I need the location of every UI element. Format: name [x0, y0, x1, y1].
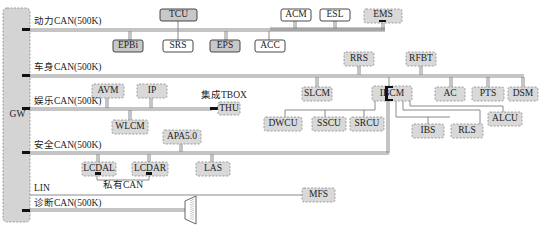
- node-label-eps: EPS: [210, 41, 240, 51]
- bus-label-infotainment: 娱乐CAN(500K): [34, 97, 102, 107]
- node-label-dsm: DSM: [508, 89, 538, 99]
- bus-label-powertrain: 动力CAN(500K): [34, 17, 102, 27]
- node-label-ibcm: IBCM: [372, 89, 412, 99]
- node-label-lcdal: LCDAL: [82, 164, 116, 174]
- node-label-avm: AVM: [92, 86, 124, 96]
- node-label-sscu: SSCU: [312, 119, 346, 129]
- diagram-canvas: [0, 0, 542, 229]
- gateway-label: GW: [4, 110, 31, 120]
- node-label-thu: THU: [218, 104, 240, 114]
- private-can-annotation: 私有CAN: [103, 181, 143, 191]
- node-label-las: LAS: [196, 164, 230, 174]
- bus-terminal: [22, 28, 30, 31]
- node-label-lcdar: LCDAR: [132, 164, 168, 174]
- bus-label-body: 车身CAN(500K): [34, 63, 102, 73]
- node-label-epbi: EPBi: [113, 41, 143, 51]
- node-label-esl: ESL: [320, 10, 350, 20]
- node-label-mfs: MFS: [302, 190, 335, 200]
- obd-connector-icon: [185, 196, 196, 224]
- node-label-ems: EMS: [364, 10, 402, 20]
- node-label-slcm: SLCM: [302, 89, 332, 99]
- node-label-tcu: TCU: [160, 10, 197, 20]
- node-label-srs: SRS: [163, 41, 193, 51]
- node-label-ip: IP: [137, 86, 167, 96]
- node-label-ibs: IBS: [412, 126, 444, 136]
- node-label-acm: ACM: [281, 10, 311, 20]
- node-label-rls: RLS: [451, 126, 483, 136]
- node-label-dwcu: DWCU: [264, 119, 302, 129]
- node-label-acc: ACC: [255, 41, 285, 51]
- node-label-pts: PTS: [472, 89, 504, 99]
- bus-label-diagnostic: 诊断CAN(500K): [34, 199, 102, 209]
- node-label-wlcm: WLCM: [112, 122, 148, 132]
- node-label-rfbt: RFBT: [406, 54, 436, 64]
- bus-label-lin: LIN: [34, 184, 50, 194]
- node-label-ac: AC: [435, 89, 465, 99]
- node-label-rrs: RRS: [344, 54, 374, 64]
- vehicle-network-topology-diagram: GW 动力CAN(500K) 车身CAN(500K) 娱乐CAN(500K) 安…: [0, 0, 542, 229]
- node-label-srcu: SRCU: [350, 119, 384, 129]
- tbox-annotation: 集成TBOX: [201, 91, 247, 101]
- bus-label-safety: 安全CAN(500K): [34, 141, 102, 151]
- node-label-apa50: APA5.0: [163, 132, 201, 142]
- node-label-alcu: ALCU: [488, 114, 522, 124]
